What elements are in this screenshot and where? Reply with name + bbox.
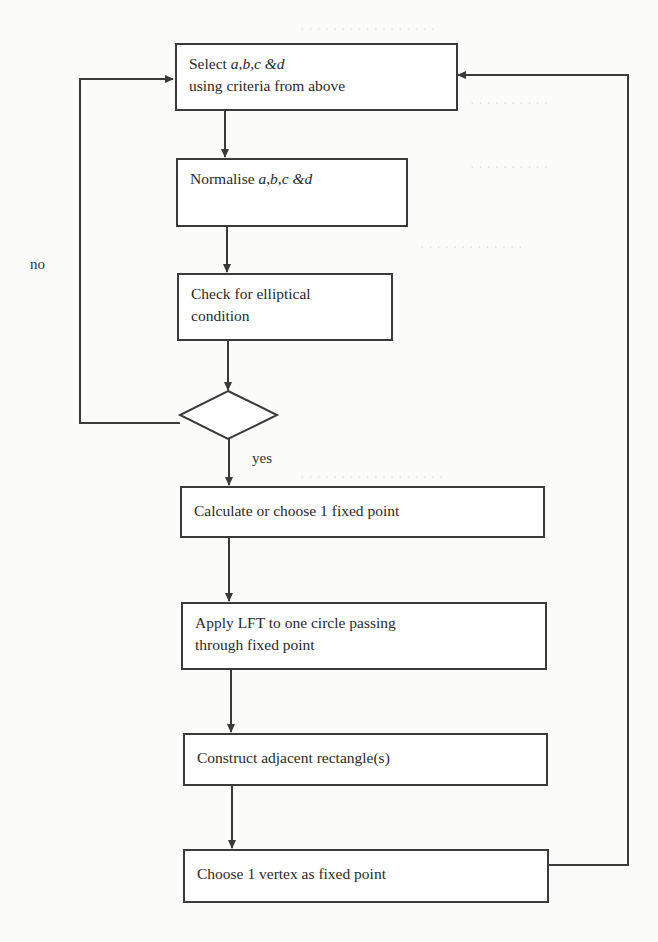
step-check-elliptical: Check for elliptical condition [177,273,393,341]
step-normalise-text: Normalise [190,170,258,187]
step-choose-vertex-text: Choose 1 vertex as fixed point [197,865,386,882]
step-construct-rectangles: Construct adjacent rectangle(s) [183,733,548,786]
arrow-no-loop [80,79,180,423]
step-select-vars: a,b,c &d [231,55,285,72]
step-apply-line1: Apply LFT to one circle passing [195,612,533,634]
decision-diamond [180,391,277,439]
step-apply-line2: through fixed point [195,634,533,656]
yes-label: yes [252,450,272,467]
step-normalise-vars: a,b,c &d [258,170,312,187]
step-calculate-fixed-point: Calculate or choose 1 fixed point [180,486,545,538]
step-check-line2: condition [191,305,379,327]
step-select-criteria: using criteria from above [189,75,444,97]
step-calculate-text: Calculate or choose 1 fixed point [194,502,399,519]
step-apply-lft: Apply LFT to one circle passing through … [181,602,547,670]
step-select-text: Select [189,55,231,72]
flowchart-connectors [0,0,658,942]
step-check-line1: Check for elliptical [191,283,379,305]
step-construct-text: Construct adjacent rectangle(s) [197,749,390,766]
step-choose-vertex: Choose 1 vertex as fixed point [183,849,549,903]
step-select: Select a,b,c &d using criteria from abov… [175,43,458,111]
no-label: no [30,256,45,273]
step-normalise: Normalise a,b,c &d [176,158,408,227]
